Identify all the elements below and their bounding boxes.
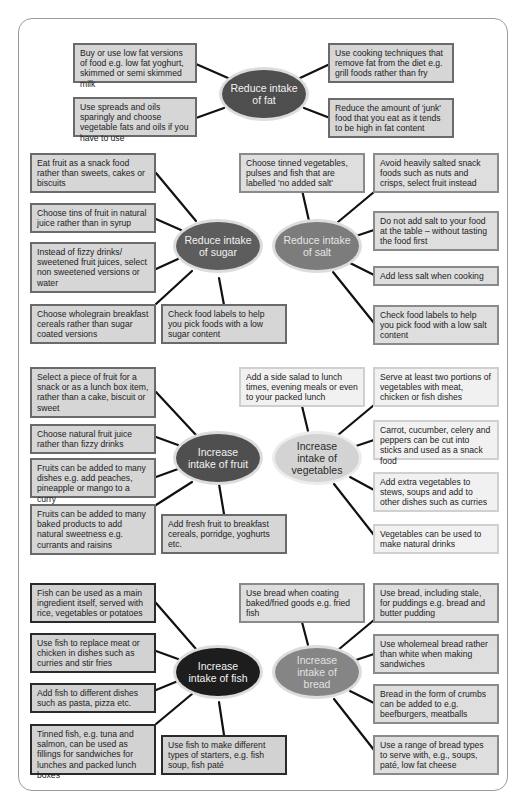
vegetables-tip-3: Carrot, cucumber, celery and peppers can… (373, 420, 499, 460)
hub-label: Reduce intake of sugar (184, 234, 251, 258)
bread-tip-3: Use wholemeal bread rather than white wh… (373, 634, 499, 674)
salt-tip-3: Do not add salt to your food at the tabl… (373, 211, 499, 251)
hub-label: Increase intake of vegetables (283, 440, 350, 476)
hub-reduce-fat: Reduce intake of fat (222, 70, 306, 118)
salt-tip-5: Check food labels to help you pick food … (373, 305, 499, 345)
sugar-tip-5: Check food labels to help you pick foods… (161, 304, 287, 344)
hub-label: Increase intake of fish (184, 660, 251, 684)
fat-tip-3: Use cooking techniques that remove fat f… (328, 43, 454, 83)
hub-reduce-salt: Reduce intake of salt (275, 222, 359, 270)
bread-tip-4: Bread in the form of crumbs can be added… (373, 684, 499, 724)
fat-tip-2: Use spreads and oils sparingly and choos… (73, 97, 197, 137)
bread-tip-2: Use bread, including stale, for puddings… (373, 583, 499, 623)
hub-label: Increase intake of bread (283, 654, 350, 690)
vegetables-tip-1: Add a side salad to lunch times, evening… (239, 367, 365, 407)
sugar-tip-2: Choose tins of fruit in natural juice ra… (30, 203, 156, 233)
vegetables-tip-4: Add extra vegetables to stews, soups and… (373, 472, 499, 512)
sugar-tip-4: Choose wholegrain breakfast cereals rath… (30, 304, 156, 344)
fish-tip-5: Use fish to make different types of star… (161, 735, 287, 775)
hub-increase-fish: Increase intake of fish (176, 648, 260, 696)
fish-tip-3: Add fish to different dishes such as pas… (30, 683, 156, 713)
fruit-tip-4: Fruits can be added to many baked produc… (30, 504, 156, 555)
fruit-tip-1: Select a piece of fruit for a snack or a… (30, 367, 156, 418)
hub-label: Reduce intake of fat (230, 82, 297, 106)
vegetables-tip-2: Serve at least two portions of vegetable… (373, 367, 499, 407)
hub-label: Reduce intake of salt (283, 234, 350, 258)
bread-tip-1: Use bread when coating baked/fried goods… (239, 583, 365, 623)
sugar-tip-1: Eat fruit as a snack food rather than sw… (30, 153, 156, 193)
salt-tip-1: Choose tinned vegetables, pulses and fis… (239, 153, 365, 193)
fruit-tip-3: Fruits can be added to many dishes e.g. … (30, 458, 156, 498)
salt-tip-2: Avoid heavily salted snack foods such as… (373, 153, 499, 193)
fruit-tip-5: Add fresh fruit to breakfast cereals, po… (161, 514, 287, 554)
fat-tip-1: Buy or use low fat versions of food e.g.… (73, 43, 197, 83)
hub-reduce-sugar: Reduce intake of sugar (176, 222, 260, 270)
hub-increase-vegetables: Increase intake of vegetables (275, 434, 359, 482)
salt-tip-4: Add less salt when cooking (373, 266, 499, 286)
fruit-tip-2: Choose natural fruit juice rather than f… (30, 424, 156, 454)
fish-tip-2: Use fish to replace meat or chicken in d… (30, 633, 156, 673)
hub-increase-bread: Increase intake of bread (275, 648, 359, 696)
vegetables-tip-5: Vegetables can be used to make natural d… (373, 524, 499, 554)
fat-tip-4: Reduce the amount of 'junk' food that yo… (328, 98, 454, 138)
hub-label: Increase intake of fruit (184, 446, 251, 470)
bread-tip-5: Use a range of bread types to serve with… (373, 735, 499, 775)
fish-tip-4: Tinned fish, e.g. tuna and salmon, can b… (30, 724, 156, 775)
fish-tip-1: Fish can be used as a main ingredient it… (30, 583, 156, 623)
sugar-tip-3: Instead of fizzy drinks/ sweetened fruit… (30, 242, 156, 293)
hub-increase-fruit: Increase intake of fruit (176, 434, 260, 482)
